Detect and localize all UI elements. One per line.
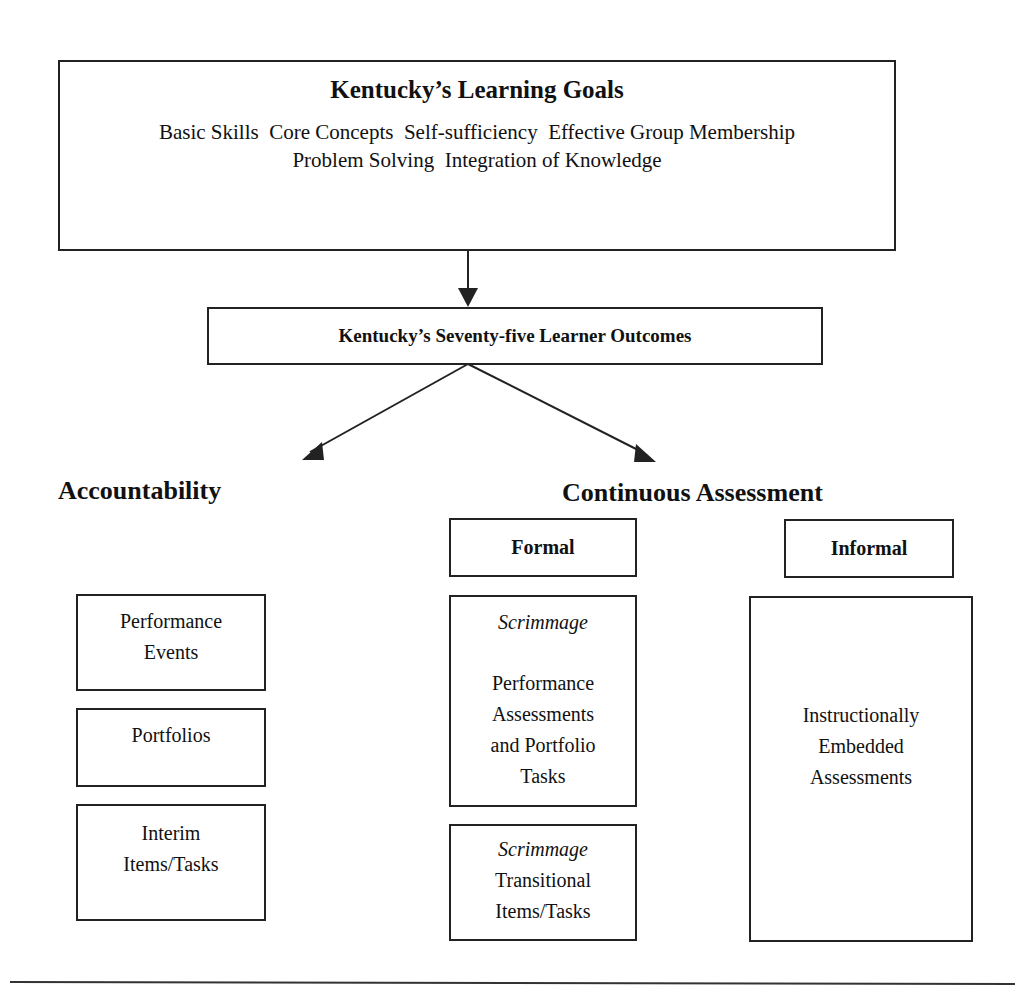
box-text: Events [78,637,264,668]
scrimmage-transitional-box: Scrimmage Transitional Items/Tasks [449,824,637,941]
box-text: Performance [451,668,635,699]
learning-goals-box: Kentucky’s Learning Goals Basic Skills C… [58,60,896,251]
embedded-assessments-box: Instructionally Embedded Assessments [749,596,973,942]
informal-box: Informal [784,519,954,578]
box-text: Scrimmage [451,834,635,865]
learning-goals-line2: Problem Solving Integration of Knowledge [60,146,894,174]
learner-outcomes-label: Kentucky’s Seventy-five Learner Outcomes [338,325,691,347]
performance-events-box: Performance Events [76,594,266,691]
learning-goals-line1: Basic Skills Core Concepts Self-sufficie… [60,118,894,146]
box-text: Instructionally [751,700,971,731]
informal-label: Informal [831,537,908,560]
box-text: Assessments [451,699,635,730]
box-text: Performance [78,606,264,637]
accountability-heading: Accountability [58,476,221,506]
formal-box: Formal [449,518,637,577]
box-text: Interim [78,818,264,849]
box-text: Items/Tasks [78,849,264,880]
interim-items-box: Interim Items/Tasks [76,804,266,921]
box-text: Tasks [451,761,635,792]
box-text: Portfolios [78,720,264,751]
formal-label: Formal [511,536,574,559]
box-text: Assessments [751,762,971,793]
learner-outcomes-box: Kentucky’s Seventy-five Learner Outcomes [207,307,823,365]
box-text: Items/Tasks [451,896,635,927]
scrimmage-performance-box: Scrimmage Performance Assessments and Po… [449,595,637,807]
box-text: Transitional [451,865,635,896]
box-text: Embedded [751,731,971,762]
learning-goals-title: Kentucky’s Learning Goals [60,76,894,104]
box-text: and Portfolio [451,730,635,761]
box-text: Scrimmage [451,607,635,638]
continuous-assessment-heading: Continuous Assessment [562,478,823,508]
portfolios-box: Portfolios [76,708,266,787]
